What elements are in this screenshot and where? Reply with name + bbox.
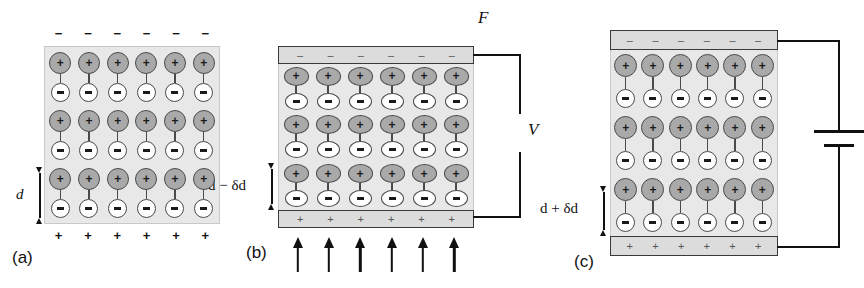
negative-ion	[137, 83, 156, 102]
dipole-stem	[734, 77, 735, 89]
positive-ion: +	[669, 178, 692, 201]
dipole: +	[694, 174, 721, 236]
dipole: +	[639, 112, 666, 174]
panel-b: F – – – – – – + + + + + + + + + + + + + …	[240, 0, 560, 288]
electrode-charge-plus: +	[358, 214, 364, 225]
electrode-charge-plus: +	[729, 241, 735, 252]
positive-ion: +	[444, 115, 469, 134]
negative-ion	[165, 83, 184, 102]
negative-ion	[349, 141, 372, 158]
positive-ion: +	[669, 116, 692, 139]
electrode-charge-minus: –	[704, 35, 710, 46]
dipole-stem	[455, 86, 456, 93]
panel-c-dimension-label: d + δd	[540, 200, 578, 217]
negative-ion	[194, 141, 213, 160]
negative-ion	[643, 213, 662, 232]
positive-ion: +	[751, 54, 774, 77]
dipole: +	[694, 50, 721, 112]
positive-ion: +	[641, 116, 664, 139]
positive-ion: +	[107, 168, 129, 190]
negative-ion	[51, 141, 70, 160]
dipole-stem	[117, 132, 118, 141]
electrode-charge-plus: +	[652, 241, 658, 252]
positive-ion: +	[412, 164, 437, 183]
dipole: +	[280, 113, 312, 162]
positive-ion: +	[284, 67, 309, 86]
negative-ion	[349, 190, 372, 207]
dipole: +	[344, 64, 376, 113]
dipole-stem	[734, 201, 735, 213]
dipole-stem	[391, 86, 392, 93]
positive-ion: +	[78, 110, 100, 132]
negative-ion	[698, 151, 717, 170]
panel-b-dipole-lattice: + + + + + + + + + + + + + + + + + +	[280, 64, 472, 210]
positive-ion: +	[380, 115, 405, 134]
positive-ion: +	[444, 164, 469, 183]
electrode-charge-minus: –	[358, 50, 364, 61]
dipole-stem	[762, 77, 763, 89]
surface-charge-plus: +	[202, 229, 210, 242]
dipole-stem	[423, 183, 424, 190]
positive-ion: +	[135, 110, 157, 132]
surface-charge-plus: +	[172, 229, 180, 242]
negative-ion	[753, 89, 772, 108]
dipole-stem	[391, 134, 392, 141]
positive-ion: +	[380, 164, 405, 183]
dipole-stem	[60, 132, 61, 141]
dipole: +	[189, 106, 218, 164]
positive-ion: +	[284, 115, 309, 134]
surface-charge-minus: −	[114, 27, 122, 40]
panel-b-wire-top	[473, 54, 521, 56]
dipole: +	[132, 164, 161, 222]
positive-ion: +	[696, 116, 719, 139]
panel-c-bottom-electrode: + + + + + +	[610, 236, 778, 256]
positive-ion: +	[723, 54, 746, 77]
positive-ion: +	[49, 168, 71, 190]
dimension-arrow-up-icon	[36, 218, 42, 224]
dipole-stem	[762, 139, 763, 151]
panel-c-dimension-marker	[600, 186, 608, 236]
positive-ion: +	[412, 115, 437, 134]
positive-ion: +	[107, 110, 129, 132]
panel-b-wire-bottom	[473, 216, 521, 218]
panel-c-wire-bottom	[777, 246, 840, 248]
positive-ion: +	[348, 115, 373, 134]
dipole: +	[46, 48, 75, 106]
dipole-stem	[117, 74, 118, 83]
electrode-charge-minus: –	[327, 50, 333, 61]
positive-ion: +	[107, 52, 129, 74]
negative-ion	[725, 151, 744, 170]
dimension-arrow-up-icon	[268, 204, 274, 210]
positive-ion: +	[614, 116, 637, 139]
panel-a: − − − − − − + + + + + + + + + + + + + + …	[0, 0, 240, 288]
positive-ion: +	[669, 54, 692, 77]
positive-ion: +	[193, 52, 215, 74]
dipole: +	[694, 112, 721, 174]
positive-ion: +	[135, 168, 157, 190]
negative-ion	[445, 93, 468, 110]
dipole-stem	[60, 74, 61, 83]
negative-ion	[79, 83, 98, 102]
dipole: +	[46, 164, 75, 222]
electrode-charge-minus: –	[297, 50, 303, 61]
positive-ion: +	[641, 178, 664, 201]
surface-charge-minus: −	[202, 27, 210, 40]
panel-b-dimension-marker	[268, 163, 276, 210]
dipole: +	[639, 174, 666, 236]
dipole: +	[344, 161, 376, 210]
negative-ion	[616, 89, 635, 108]
negative-ion	[317, 93, 340, 110]
dipole-stem	[423, 134, 424, 141]
dipole: +	[280, 64, 312, 113]
surface-charge-plus: +	[143, 229, 151, 242]
dipole: +	[440, 113, 472, 162]
electrode-charge-plus: +	[627, 241, 633, 252]
negative-ion	[285, 93, 308, 110]
dipole-stem	[295, 183, 296, 190]
dimension-arrow-up-icon	[600, 230, 606, 236]
dipole: +	[312, 161, 344, 210]
negative-ion	[381, 93, 404, 110]
panel-c-top-electrode: – – – – – –	[610, 30, 778, 50]
dipole: +	[440, 64, 472, 113]
dipole: +	[161, 48, 190, 106]
